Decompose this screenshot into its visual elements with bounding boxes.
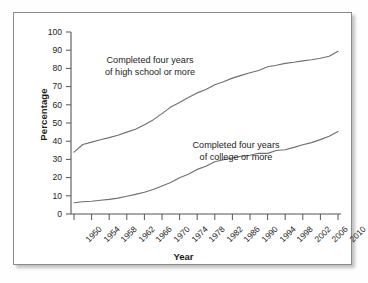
x-axis-title: Year — [14, 251, 353, 262]
annotation-high-school-line1: Completed four years — [80, 54, 220, 66]
chart-panel: 100 90 80 70 60 50 40 30 20 10 0 1950 19… — [13, 12, 352, 265]
y-tick-label: 100 — [36, 27, 62, 37]
y-tick-marks — [66, 32, 71, 214]
y-tick-label: 20 — [36, 172, 62, 182]
x-tick-marks — [74, 214, 338, 220]
annotation-college-line1: Completed four years — [166, 139, 306, 151]
chart-figure: 100 90 80 70 60 50 40 30 20 10 0 1950 19… — [14, 13, 353, 266]
y-tick-label: 90 — [36, 45, 62, 55]
annotation-college-line2: of college or more — [166, 151, 306, 163]
annotation-high-school-line2: of high school or more — [80, 66, 220, 78]
screenshot-root: 100 90 80 70 60 50 40 30 20 10 0 1950 19… — [0, 0, 368, 283]
y-axis-title: Percentage — [38, 70, 49, 160]
annotation-college: Completed four years of college or more — [166, 139, 306, 163]
annotation-high-school: Completed four years of high school or m… — [80, 54, 220, 78]
y-tick-label: 10 — [36, 191, 62, 201]
y-tick-label: 0 — [36, 209, 62, 219]
